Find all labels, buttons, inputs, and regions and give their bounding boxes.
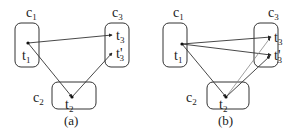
node-t2-label: t2 xyxy=(65,97,73,114)
panel-b: c1 c3 c2 t1 t2 t3 t'3 (b) xyxy=(163,5,283,128)
node-t1-dot xyxy=(180,42,183,45)
svg-text:c1: c1 xyxy=(173,5,184,22)
svg-text:c3: c3 xyxy=(268,5,279,22)
node-t3p-label: t'3 xyxy=(274,48,282,65)
diagram-canvas: c1 c3 c2 t1 t2 t3 t'3 (a) c1 c3 xyxy=(0,0,295,136)
node-t2-dot xyxy=(224,95,227,98)
node-t3-label: t3 xyxy=(116,28,125,45)
svg-text:c1: c1 xyxy=(26,5,37,22)
caption-a: (a) xyxy=(64,113,78,128)
node-t1-dot xyxy=(26,41,29,44)
edges-b xyxy=(182,37,271,97)
svg-text:c2: c2 xyxy=(33,90,44,107)
node-t1-label: t1 xyxy=(22,48,30,65)
node-t2-dot xyxy=(70,95,73,98)
node-t2-label: t2 xyxy=(219,97,227,114)
svg-text:c3: c3 xyxy=(112,5,123,22)
panel-a: c1 c3 c2 t1 t2 t3 t'3 (a) xyxy=(15,5,129,128)
svg-text:c2: c2 xyxy=(186,90,197,107)
node-t1-label: t1 xyxy=(174,48,182,65)
caption-b: (b) xyxy=(218,113,233,128)
node-t3p-label: t'3 xyxy=(116,46,124,63)
cluster-c2: c2 xyxy=(186,82,249,109)
edges-a xyxy=(28,35,112,97)
